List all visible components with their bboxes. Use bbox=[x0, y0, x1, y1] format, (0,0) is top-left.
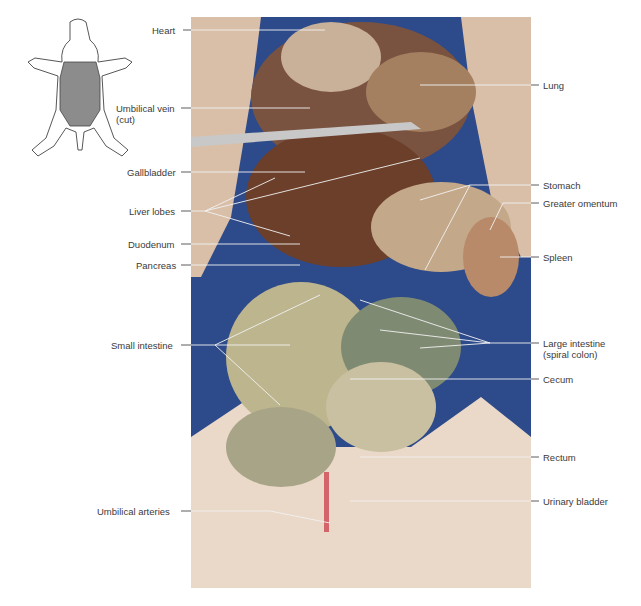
dissection-photo bbox=[191, 17, 531, 588]
shaded-torso bbox=[60, 62, 100, 126]
label-umbilical-vein-line1: Umbilical vein bbox=[116, 103, 175, 114]
label-large-intestine-line1: Large intestine bbox=[543, 338, 605, 349]
label-duodenum: Duodenum bbox=[128, 239, 174, 250]
label-urinary-bladder: Urinary bladder bbox=[543, 496, 608, 507]
label-stomach: Stomach bbox=[543, 180, 581, 191]
pig-orientation-icon bbox=[10, 10, 150, 170]
label-rectum: Rectum bbox=[543, 452, 576, 463]
label-umbilical-arteries: Umbilical arteries bbox=[97, 506, 170, 517]
label-umbilical-vein-line2: (cut) bbox=[116, 114, 175, 125]
label-heart: Heart bbox=[152, 25, 175, 36]
label-lung: Lung bbox=[543, 80, 564, 91]
label-large-intestine-line2: (spiral colon) bbox=[543, 349, 605, 360]
label-small-intestine: Small intestine bbox=[111, 340, 173, 351]
label-cecum: Cecum bbox=[543, 374, 573, 385]
label-liver-lobes: Liver lobes bbox=[129, 206, 175, 217]
label-pancreas: Pancreas bbox=[136, 260, 176, 271]
label-umbilical-vein: Umbilical vein (cut) bbox=[116, 103, 175, 125]
label-spleen: Spleen bbox=[543, 252, 573, 263]
label-gallbladder: Gallbladder bbox=[127, 167, 176, 178]
label-large-intestine: Large intestine (spiral colon) bbox=[543, 338, 605, 360]
label-greater-omentum: Greater omentum bbox=[543, 198, 617, 209]
